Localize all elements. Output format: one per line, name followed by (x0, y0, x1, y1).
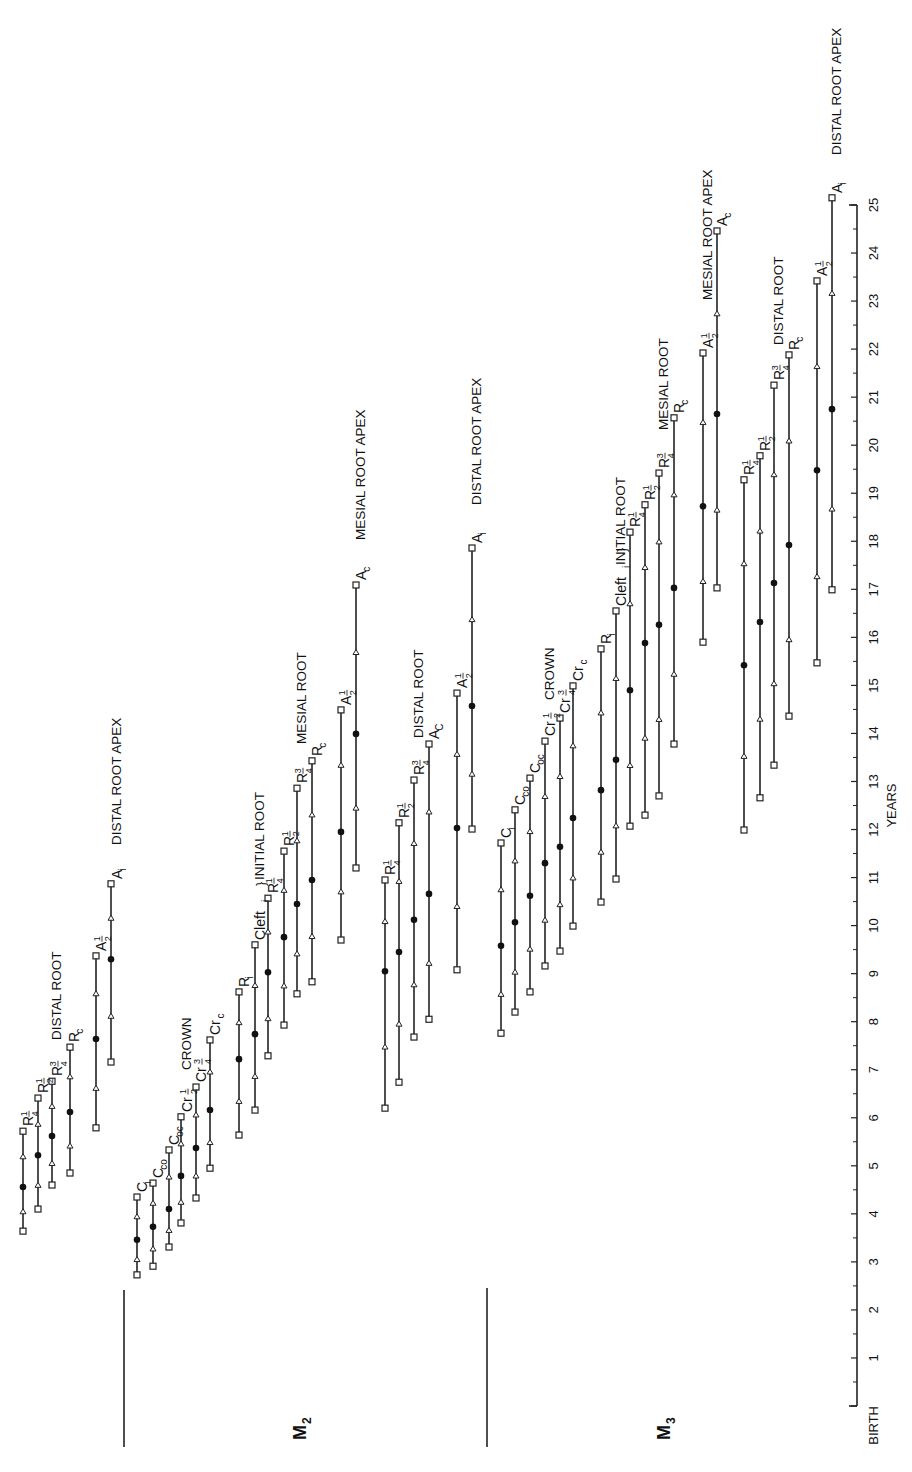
stage-subscript: i (621, 566, 632, 568)
min-square (512, 1009, 518, 1015)
mean-dot (382, 968, 389, 975)
stage-bar (150, 1180, 157, 1269)
min-square (498, 1030, 504, 1036)
tick-label: 15 (866, 678, 881, 692)
stage-symbol: R (757, 441, 773, 451)
stage-subscript: i (606, 634, 617, 636)
quartile-marker (411, 982, 417, 987)
tick-label: 11 (866, 871, 881, 885)
quartile-marker (557, 774, 563, 779)
panel-label-main: M (290, 1425, 310, 1440)
fraction-numerator: 1 (541, 713, 551, 718)
fraction-denominator: 4 (666, 453, 676, 458)
fraction-denominator: 2 (103, 936, 113, 941)
tick-label: 16 (866, 630, 881, 644)
min-square (469, 826, 475, 832)
stage-label: R34 (48, 1061, 69, 1076)
quartile-marker (281, 887, 287, 892)
tick-label: 14 (866, 726, 881, 740)
quartile-marker (598, 849, 604, 854)
min-square (294, 991, 300, 997)
fraction-numerator: 1 (699, 333, 709, 338)
min-square (207, 1165, 213, 1171)
min-square (426, 1016, 432, 1022)
stage-bar (281, 848, 288, 1028)
fraction-denominator: 4 (637, 512, 647, 517)
stage-symbol: R (281, 836, 297, 846)
fraction-denominator: 4 (567, 690, 577, 695)
quartile-marker (700, 578, 706, 583)
fraction-numerator: 1 (641, 485, 651, 490)
max-square (613, 608, 619, 614)
panel-label: M3 (654, 1417, 678, 1440)
min-square (108, 1059, 114, 1065)
group-label: DISTAL ROOT APEX (109, 718, 124, 845)
max-square (570, 683, 576, 689)
max-square (771, 382, 777, 388)
quartile-marker (49, 1160, 55, 1165)
stage-label: Cr12 (541, 713, 562, 736)
mean-dot (281, 934, 288, 941)
stage-bar (570, 683, 577, 929)
fraction-numerator: 3 (770, 365, 780, 370)
panel-labels: M2M3 (290, 1417, 678, 1440)
stage-symbol: R (265, 883, 281, 893)
stage-bar (598, 646, 605, 905)
tick-label: 22 (866, 342, 881, 356)
group-label: INITIAL ROOT (252, 792, 267, 880)
stage-bar (93, 953, 100, 1131)
quartile-marker (741, 753, 747, 758)
max-square (598, 646, 604, 652)
stage-bar (829, 195, 836, 593)
mean-dot (134, 1236, 141, 1243)
fraction-denominator: 4 (275, 878, 285, 883)
group-label: DISTAL ROOT APEX (469, 378, 484, 505)
max-square (309, 758, 315, 764)
stage-symbol: R (294, 773, 310, 783)
quartile-marker (134, 1257, 140, 1262)
max-square (527, 775, 533, 781)
stage-label: Ac (353, 567, 372, 580)
stage-bar (613, 608, 620, 882)
stage-symbol: R (396, 808, 412, 818)
max-square (236, 989, 242, 995)
quartile-marker (527, 946, 533, 951)
tick-label: 7 (866, 1066, 881, 1073)
max-square (353, 582, 359, 588)
mean-dot (469, 703, 476, 710)
tick-label: 18 (866, 534, 881, 548)
quartile-marker (166, 1227, 172, 1232)
min-square (671, 741, 677, 747)
quartile-marker (67, 1143, 73, 1148)
max-square (714, 228, 720, 234)
mean-dot (252, 1031, 259, 1038)
min-square (786, 713, 792, 719)
tick-label: 20 (866, 438, 881, 452)
chart-canvas: BIRTH12345678910111213141516171819202122… (0, 0, 912, 1472)
stage-label: Rc (66, 1029, 85, 1042)
quartile-marker (426, 960, 432, 965)
tick-label: 10 (866, 918, 881, 932)
stage-label: Ci (498, 828, 517, 838)
mean-dot (627, 687, 634, 694)
min-square (193, 1195, 199, 1201)
min-square (570, 923, 576, 929)
quartile-marker (527, 829, 533, 834)
stage-symbol: R (656, 458, 672, 468)
stage-label: R14 (626, 512, 647, 527)
years-axis: BIRTH12345678910111213141516171819202122… (849, 198, 899, 1445)
mean-dot (309, 877, 316, 884)
quartile-marker (627, 762, 633, 767)
min-square (741, 827, 747, 833)
group-label: DISTAL ROOT (771, 256, 786, 345)
mean-dot (757, 619, 764, 626)
quartile-marker (598, 710, 604, 715)
fraction-numerator: 1 (756, 436, 766, 441)
quartile-marker (757, 528, 763, 533)
stage-symbol: A (700, 338, 716, 348)
group-label: MESIAL ROOT APEX (700, 169, 715, 300)
tick-label: 2 (866, 1306, 881, 1313)
min-square (829, 587, 835, 593)
quartile-marker (700, 419, 706, 424)
stage-symbol: Cr (193, 1067, 209, 1082)
